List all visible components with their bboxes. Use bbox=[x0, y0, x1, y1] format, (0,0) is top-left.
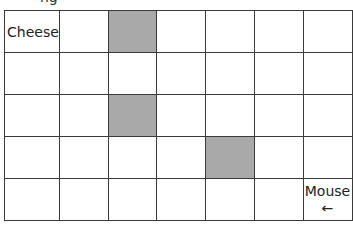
grid-cell bbox=[59, 95, 108, 137]
grid-cell bbox=[255, 11, 304, 53]
grid-cell bbox=[255, 137, 304, 179]
grid-cell bbox=[59, 179, 108, 221]
grid-cell bbox=[157, 11, 206, 53]
cheese-label: Cheese bbox=[7, 24, 59, 40]
grid-cell bbox=[303, 53, 352, 95]
grid-cell bbox=[59, 53, 108, 95]
caption-text: ng bbox=[40, 0, 58, 5]
grid-cell bbox=[303, 95, 352, 137]
grid-cell bbox=[5, 53, 60, 95]
grid-row bbox=[5, 95, 353, 137]
grid-row bbox=[5, 137, 353, 179]
grid-cell bbox=[206, 53, 255, 95]
grid-cell bbox=[108, 137, 157, 179]
grid-cell bbox=[108, 179, 157, 221]
maze-grid: CheeseMouse← bbox=[4, 10, 353, 221]
mouse-cell: Mouse← bbox=[303, 179, 352, 221]
grid-cell bbox=[255, 95, 304, 137]
grid-cell bbox=[303, 137, 352, 179]
mouse-label: Mouse bbox=[304, 183, 351, 200]
grid-row: Cheese bbox=[5, 11, 353, 53]
grid-cell bbox=[108, 53, 157, 95]
grid-cell bbox=[157, 137, 206, 179]
left-arrow-icon: ← bbox=[304, 200, 351, 217]
grid-cell bbox=[255, 53, 304, 95]
grid-cell bbox=[59, 137, 108, 179]
grid-cell bbox=[206, 95, 255, 137]
grid-row: Mouse← bbox=[5, 179, 353, 221]
grid-cell bbox=[5, 179, 60, 221]
grid-cell bbox=[206, 179, 255, 221]
grid-cell bbox=[255, 179, 304, 221]
grid-cell bbox=[157, 95, 206, 137]
grid-row bbox=[5, 53, 353, 95]
shaded-cell bbox=[108, 11, 157, 53]
grid-cell bbox=[303, 11, 352, 53]
grid-cell bbox=[206, 11, 255, 53]
grid-cell bbox=[5, 95, 60, 137]
grid-cell bbox=[59, 11, 108, 53]
shaded-cell bbox=[108, 95, 157, 137]
grid-cell bbox=[157, 179, 206, 221]
grid-cell bbox=[5, 137, 60, 179]
grid-cell bbox=[157, 53, 206, 95]
cheese-cell: Cheese bbox=[5, 11, 60, 53]
shaded-cell bbox=[206, 137, 255, 179]
